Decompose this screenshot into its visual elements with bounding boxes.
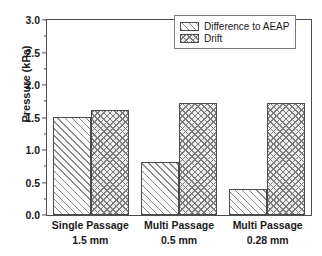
bar-difference-to-aeap[interactable]: [229, 189, 267, 215]
x-category-line1: Single Passage: [52, 219, 129, 231]
x-category-line2: 1.5 mm: [46, 233, 134, 248]
x-category-line2: 0.28 mm: [224, 233, 312, 248]
y-tick-label: 1.0: [25, 144, 40, 156]
y-tick-label: 3.0: [25, 14, 40, 26]
x-category-line1: Multi Passage: [144, 219, 214, 231]
bar-chart-figure: Pressure (kPa) 0.00.51.01.52.02.53.0 Sin…: [0, 0, 322, 256]
x-category-line1: Multi Passage: [233, 219, 303, 231]
y-tick-label: 0.0: [25, 209, 40, 221]
bar-drift[interactable]: [267, 103, 305, 215]
bar-group: [141, 20, 217, 215]
plot-inner: 0.00.51.01.52.02.53.0: [47, 20, 311, 215]
x-axis-category-label: Multi Passage0.5 mm: [135, 218, 223, 248]
x-axis-category-label: Single Passage1.5 mm: [46, 218, 134, 248]
y-tick-label: 0.5: [25, 177, 40, 189]
bar-difference-to-aeap[interactable]: [141, 162, 179, 215]
chart-legend: Difference to AEAPDrift: [174, 15, 296, 49]
legend-swatch-diagonal-hatch: [180, 22, 199, 31]
bar-difference-to-aeap[interactable]: [53, 117, 91, 215]
legend-label: Drift: [204, 33, 222, 44]
x-category-line2: 0.5 mm: [135, 233, 223, 248]
y-tick-label: 1.5: [25, 112, 40, 124]
bar-group: [229, 20, 305, 215]
bar-drift[interactable]: [179, 103, 217, 215]
bar-group: [53, 20, 129, 215]
legend-swatch-cross-hatch: [180, 34, 199, 43]
y-tick-label: 2.5: [25, 47, 40, 59]
bar-drift[interactable]: [91, 110, 129, 215]
legend-label: Difference to AEAP: [204, 21, 289, 32]
y-tick-label: 2.0: [25, 79, 40, 91]
x-axis-category-label: Multi Passage0.28 mm: [224, 218, 312, 248]
bar-groups: [47, 20, 311, 215]
x-axis-labels: Single Passage1.5 mmMulti Passage0.5 mmM…: [46, 218, 312, 248]
legend-entry[interactable]: Drift: [180, 32, 289, 44]
legend-entry[interactable]: Difference to AEAP: [180, 20, 289, 32]
